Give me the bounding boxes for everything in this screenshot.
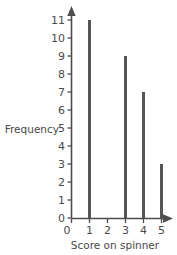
x-axis-arrow-icon bbox=[163, 214, 173, 222]
y-tick-label-3: 3 bbox=[58, 158, 65, 171]
x-tick-label-5: 5 bbox=[158, 224, 165, 237]
y-tick-label-6: 6 bbox=[58, 104, 65, 117]
bar-score-3 bbox=[124, 56, 127, 218]
y-tick-label-4: 4 bbox=[58, 140, 65, 153]
x-tick-label-2: 2 bbox=[104, 224, 111, 237]
y-axis-tick-labels: 0 1 2 3 4 5 6 7 8 9 10 11 bbox=[51, 14, 65, 225]
y-tick-label-2: 2 bbox=[58, 176, 65, 189]
y-tick-label-11: 11 bbox=[51, 14, 65, 27]
x-tick-label-4: 4 bbox=[140, 224, 147, 237]
y-axis-arrow-icon bbox=[67, 6, 75, 16]
x-axis-tick-labels: 0 1 2 3 4 5 bbox=[64, 224, 166, 237]
x-tick-label-1: 1 bbox=[86, 224, 93, 237]
chart-figure: 0 1 2 3 4 5 6 7 8 9 10 11 0 1 2 3 4 5 bbox=[0, 0, 177, 255]
y-tick-label-7: 7 bbox=[58, 86, 65, 99]
x-tick-label-3: 3 bbox=[122, 224, 129, 237]
y-tick-label-5: 5 bbox=[58, 122, 65, 135]
y-tick-label-9: 9 bbox=[58, 50, 65, 63]
bar-score-4 bbox=[142, 92, 145, 218]
y-tick-label-8: 8 bbox=[58, 68, 65, 81]
x-tick-label-0: 0 bbox=[64, 224, 71, 237]
y-axis-title: Frequency bbox=[5, 123, 59, 135]
bar-score-5 bbox=[160, 164, 163, 218]
x-axis-title: Score on spinner bbox=[71, 239, 160, 251]
bar-series bbox=[88, 20, 163, 218]
bar-chart-plot: 0 1 2 3 4 5 6 7 8 9 10 11 0 1 2 3 4 5 bbox=[0, 0, 177, 255]
y-tick-label-1: 1 bbox=[58, 194, 65, 207]
bar-score-1 bbox=[88, 20, 91, 218]
y-tick-label-10: 10 bbox=[51, 32, 65, 45]
